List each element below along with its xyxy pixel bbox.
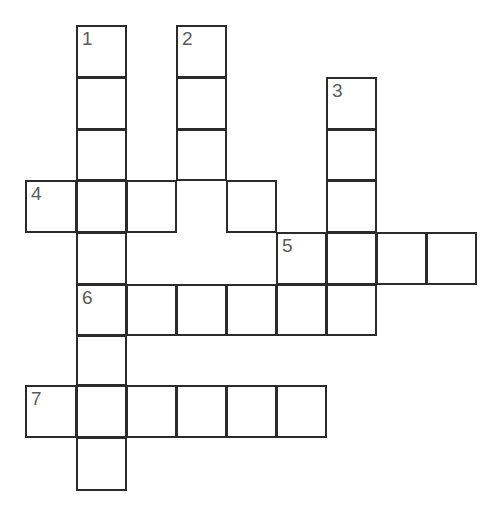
cell-number-2: 2 (182, 27, 193, 51)
crossword-cell[interactable] (426, 232, 477, 285)
cell-number-4: 4 (31, 182, 42, 206)
crossword-cell[interactable] (76, 437, 127, 491)
crossword-cell[interactable]: 6 (76, 284, 127, 336)
crossword-cell[interactable] (326, 180, 377, 233)
crossword-cell[interactable] (276, 385, 327, 438)
crossword-cell[interactable] (76, 180, 127, 233)
crossword-cell[interactable] (226, 284, 277, 336)
crossword-cell[interactable] (76, 77, 127, 130)
cell-number-6: 6 (82, 286, 93, 310)
crossword-cell[interactable] (376, 232, 427, 285)
crossword-cell[interactable] (326, 129, 377, 181)
crossword-cell[interactable] (126, 180, 177, 233)
crossword-grid[interactable]: 1623457 (0, 0, 501, 517)
crossword-cell[interactable] (176, 385, 227, 438)
crossword-cell[interactable] (326, 284, 377, 336)
crossword-cell[interactable] (76, 232, 127, 285)
crossword-cell[interactable]: 4 (25, 180, 77, 233)
crossword-cell[interactable]: 3 (326, 77, 377, 130)
crossword-cell[interactable] (176, 77, 227, 130)
crossword-cell[interactable] (326, 232, 377, 285)
crossword-cell[interactable] (226, 180, 277, 233)
crossword-cell[interactable]: 5 (276, 232, 327, 285)
crossword-cell[interactable] (276, 284, 327, 336)
crossword-cell[interactable] (176, 129, 227, 181)
crossword-puzzle: 1623457 (0, 0, 501, 517)
cell-number-3: 3 (332, 79, 343, 103)
crossword-cell[interactable] (126, 284, 177, 336)
crossword-cell[interactable] (226, 385, 277, 438)
crossword-cell[interactable] (176, 284, 227, 336)
crossword-cell[interactable] (126, 385, 177, 438)
crossword-cell[interactable]: 1 (76, 25, 127, 78)
cell-number-1: 1 (82, 27, 93, 51)
crossword-cell[interactable]: 7 (25, 385, 77, 438)
crossword-cell[interactable] (76, 385, 127, 438)
crossword-cell[interactable] (76, 129, 127, 181)
cell-number-7: 7 (31, 387, 42, 411)
crossword-cell[interactable]: 2 (176, 25, 227, 78)
cell-number-5: 5 (282, 234, 293, 258)
crossword-cell[interactable] (76, 335, 127, 386)
